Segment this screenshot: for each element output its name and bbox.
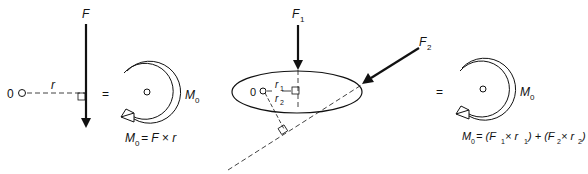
force1-arrowhead-icon (293, 60, 303, 70)
right-angle-marker-icon (78, 93, 85, 100)
force1-subscript: 1 (300, 15, 305, 24)
origin-label-2: 0 (250, 86, 256, 98)
r1-label: r (275, 79, 279, 90)
force-arrowhead-icon (81, 118, 91, 128)
moment-label: M (185, 88, 195, 102)
r2-subscript: 2 (280, 99, 284, 106)
svg-text:× r: × r (505, 130, 519, 142)
moment-arc-icon (121, 61, 181, 123)
force2-label: F (419, 35, 427, 49)
equals-sign-2: = (436, 85, 443, 99)
distance-label: r (51, 78, 56, 92)
moment-center-point-2-icon (480, 86, 486, 92)
svg-text:0: 0 (135, 139, 140, 148)
f2-line-of-action-dashed (228, 84, 363, 170)
origin-point-2-icon (260, 88, 266, 94)
single-moment-formula: M 0 = F × r (125, 131, 177, 148)
origin-point-icon (19, 90, 26, 97)
moment-subscript-2: 0 (530, 93, 535, 102)
svg-text:M: M (125, 131, 135, 145)
r1-subscript: 1 (280, 85, 284, 92)
moment-label-2: M (520, 85, 530, 99)
single-force-panel: 0 r F = M 0 M 0 = F × r (7, 7, 200, 148)
force1-label: F (292, 7, 300, 21)
moment-subscript: 0 (195, 96, 200, 105)
svg-text:= F × r: = F × r (141, 131, 177, 145)
multi-force-panel: 0 r 1 r 2 F 1 F 2 (228, 7, 432, 170)
force2-subscript: 2 (427, 43, 432, 52)
svg-text:) + (F: ) + (F (526, 130, 556, 142)
r2-label: r (275, 93, 279, 104)
moment-diagram: 0 r F = M 0 M 0 = F × r (0, 0, 588, 174)
resultant-moment-panel: = M 0 M 0 = (F 1 × r 1 ) + (F 2 × r 2 ) (436, 58, 586, 145)
svg-text:= (F: = (F (476, 130, 497, 142)
force2-arrow-icon (371, 48, 419, 78)
origin-label: 0 (7, 87, 14, 101)
resultant-moment-formula: M 0 = (F 1 × r 1 ) + (F 2 × r 2 ) (462, 130, 586, 145)
force-label: F (82, 7, 90, 21)
svg-text:0: 0 (471, 138, 475, 145)
equals-sign: = (102, 87, 109, 101)
svg-text:× r: × r (561, 130, 575, 142)
moment-center-point-icon (144, 89, 150, 95)
